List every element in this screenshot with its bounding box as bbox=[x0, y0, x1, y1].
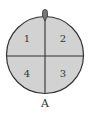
sector-label-3: 3 bbox=[60, 68, 66, 79]
pointer-label: A bbox=[40, 97, 50, 110]
sector-label-2: 2 bbox=[60, 33, 66, 44]
sector-label-4: 4 bbox=[24, 68, 30, 79]
spinner-diagram: 1 2 3 4 A bbox=[0, 0, 91, 115]
sector-label-1: 1 bbox=[24, 33, 30, 44]
